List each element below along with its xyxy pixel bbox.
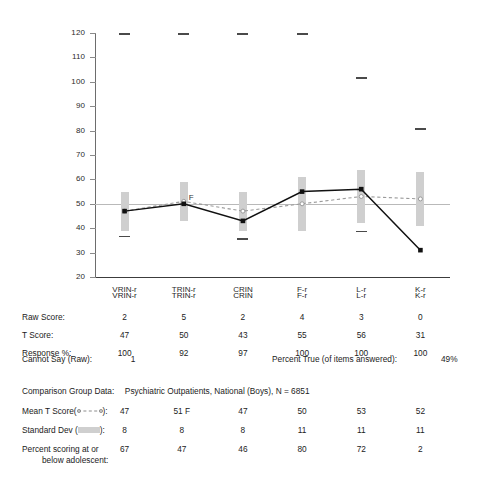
table-cell: 31 [396,330,444,340]
standard-dev-value: 11 [396,425,444,435]
cannot-say-label: Cannot Say (Raw): [22,354,92,364]
percent-scoring-label-line1: Percent scoring at or [22,444,99,454]
trin-f-annotation: F [189,193,194,202]
mean-t-score-label: Mean T Score(): [22,406,108,416]
table-cell: 56 [337,330,385,340]
table-header-k-r: K-r [390,291,450,300]
table-cell: 2 [219,312,267,322]
percent-scoring-value: 80 [278,444,326,454]
table-cell: 55 [278,330,326,340]
cannot-say-value: 1 [109,354,157,364]
percent-scoring-value: 67 [101,444,149,454]
table-header-f-r: F-r [272,291,332,300]
standard-dev-value: 8 [219,425,267,435]
gray-bar-legend-icon [78,427,100,433]
table-cell: 2 [101,312,149,322]
t-score-point [300,189,305,194]
mean-t-score-point [359,194,363,198]
mean-t-score-point [418,197,422,201]
table-cell: 3 [337,312,385,322]
t-score-point [241,219,246,224]
table-cell: 5 [160,312,208,322]
table-cell: 43 [219,330,267,340]
table-header-trin-r: TRIN-r [154,291,214,300]
table-cell: 92 [160,348,208,358]
percent-true-label: Percent True (of items answered): [272,354,397,364]
mean-t-score-value: 50 [278,406,326,416]
table-header-vrin-r: VRIN-r [95,291,155,300]
standard-dev-label: Standard Dev (): [22,425,105,435]
table-cell: 4 [278,312,326,322]
standard-dev-label-text: Standard Dev ( [22,425,78,435]
series-lines [0,0,499,300]
t-score-point [359,187,364,192]
mean-t-score-value: 47 [219,406,267,416]
profile-chart: 1201101009080706050403020 F VRIN-rTRIN-r… [0,0,499,300]
percent-scoring-value: 72 [337,444,385,454]
standard-dev-value: 8 [101,425,149,435]
standard-dev-value: 8 [158,425,206,435]
mean-t-score-label-text: Mean T Score( [22,406,77,416]
row-label: T Score: [22,330,53,340]
table-cell: 100 [396,348,444,358]
table-cell: 47 [101,330,149,340]
table-header-crin: CRIN [213,291,273,300]
score-table: VRIN-rTRIN-rCRINF-rL-rK-r Raw Score:2524… [0,286,499,486]
mean-t-score-point [241,209,245,213]
mean-t-score-value: 51 F [158,406,206,416]
mean-t-score-value: 53 [337,406,385,416]
row-label: Raw Score: [22,312,65,322]
standard-dev-value: 11 [337,425,385,435]
comparison-group-value: Psychiatric Outpatients, National (Boys)… [125,386,310,396]
comparison-group-heading: Comparison Group Data: Psychiatric Outpa… [22,386,310,396]
t-score-point [122,209,127,214]
mean-t-score-value: 52 [396,406,444,416]
percent-scoring-value: 46 [219,444,267,454]
standard-dev-value: 11 [278,425,326,435]
percent-scoring-value: 2 [396,444,444,454]
t-score-line [125,189,421,250]
mean-t-score-point [300,202,304,206]
comparison-group-label: Comparison Group Data: [22,386,114,396]
t-score-point [418,248,423,253]
table-header-l-r: L-r [331,291,391,300]
t-score-point [181,202,186,207]
table-cell: 50 [160,330,208,340]
dashed-line-legend-icon [77,408,103,414]
percent-true-value: 49% [441,354,458,364]
percent-scoring-label-line2: below adolescent: [42,455,108,465]
table-cell: 0 [396,312,444,322]
mean-t-score-value: 47 [101,406,149,416]
percent-scoring-value: 47 [158,444,206,454]
table-cell: 97 [219,348,267,358]
